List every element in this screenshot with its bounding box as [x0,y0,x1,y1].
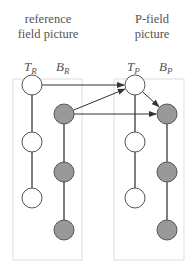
node-t-r-0 [22,75,42,95]
node-b-p-0 [157,104,177,124]
node-t-p-0 [125,75,145,95]
node-b-r-2 [54,220,74,240]
node-b-r-0 [54,104,74,124]
label-t-r: TR [24,59,37,76]
label-b-p: BP [159,59,173,76]
label-t-p: TP [127,59,140,76]
node-t-p-2 [125,188,145,208]
node-t-r-1 [22,132,42,152]
node-t-r-2 [22,188,42,208]
arrow-t-p-to-b-p [142,92,158,107]
label-b-r: BR [56,59,70,76]
node-b-p-2 [157,220,177,240]
node-t-p-1 [125,132,145,152]
node-b-p-1 [157,162,177,182]
arrow-b-r-to-t-p [73,89,125,110]
node-b-r-1 [54,162,74,182]
field-reference-diagram: TR BR TP BP [0,0,194,266]
